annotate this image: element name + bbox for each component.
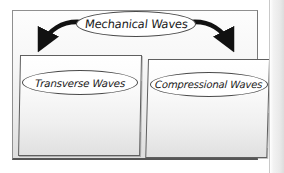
node-transverse-waves: Transverse Waves [22, 70, 138, 95]
page-edge-strip [270, 0, 284, 173]
node-compressional-waves: Compressional Waves [150, 72, 268, 97]
node-compressional-waves-label: Compressional Waves [155, 79, 263, 90]
scanned-diagram-figure: Mechanical Waves Transverse Waves Compre… [0, 0, 284, 173]
node-mechanical-waves: Mechanical Waves [76, 11, 196, 37]
node-transverse-waves-label: Transverse Waves [35, 77, 126, 89]
node-mechanical-waves-label: Mechanical Waves [84, 17, 188, 31]
